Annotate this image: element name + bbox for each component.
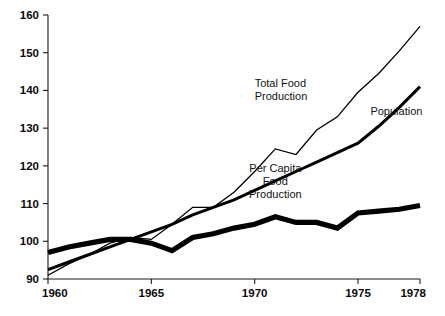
series-line-per-capita-food-production (48, 205, 420, 252)
annotation-total-food: Total FoodProduction (255, 77, 308, 102)
annotation-line: Production (249, 188, 302, 200)
annotation-line: Total Food (255, 77, 306, 89)
x-tick-label-1960: 1960 (42, 287, 68, 299)
y-tick-label-130: 130 (20, 122, 39, 134)
chart-container: 90100110120130140150160 1960196519701975… (0, 0, 445, 316)
y-tick-label-140: 140 (20, 84, 39, 96)
series-annotations: Total FoodProductionPopulationPer Capita… (249, 77, 422, 200)
annotation-population: Population (370, 105, 422, 117)
annotation-line: Food (263, 175, 288, 187)
y-tick-label-110: 110 (20, 198, 39, 210)
y-tick-label-100: 100 (20, 235, 39, 247)
annotation-line: Production (255, 90, 308, 102)
line-chart: 90100110120130140150160 1960196519701975… (0, 0, 445, 316)
annotation-line: Per Capita (249, 162, 302, 174)
annotation-per-capita: Per CapitaFoodProduction (249, 162, 302, 200)
y-axis-tick-labels: 90100110120130140150160 (20, 9, 39, 285)
y-tick-label-90: 90 (26, 273, 39, 285)
x-tick-label-1978: 1978 (400, 287, 426, 299)
y-tick-label-120: 120 (20, 160, 39, 172)
x-tick-label-1970: 1970 (242, 287, 268, 299)
data-series-lines (48, 26, 420, 275)
y-tick-label-150: 150 (20, 47, 39, 59)
x-axis-tick-labels: 19601965197019751978 (42, 287, 427, 299)
x-tick-label-1965: 1965 (139, 287, 165, 299)
y-tick-label-160: 160 (20, 9, 39, 21)
annotation-line: Population (370, 105, 422, 117)
x-tick-label-1975: 1975 (345, 287, 371, 299)
